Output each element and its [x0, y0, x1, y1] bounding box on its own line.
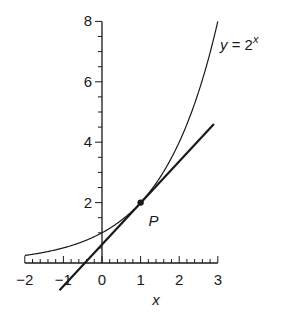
x-tick-label: 1 — [136, 271, 144, 288]
point-p-marker — [137, 199, 143, 205]
y-tick-label: 4 — [84, 133, 92, 150]
chart: −2−101232468xPy = 2x — [0, 0, 281, 317]
x-tick-label: 0 — [98, 271, 106, 288]
labels: −2−101232468xPy = 2x — [16, 12, 259, 308]
x-tick-label: −2 — [16, 271, 33, 288]
exponential-curve — [25, 21, 218, 255]
x-axis-label: x — [151, 291, 160, 308]
x-tick-label: 3 — [214, 271, 222, 288]
y-tick-label: 6 — [84, 73, 92, 90]
y-tick-label: 8 — [84, 12, 92, 29]
y-tick-label: 2 — [84, 194, 92, 211]
x-tick-label: 2 — [175, 271, 183, 288]
curves — [25, 21, 218, 290]
point-p-label: P — [149, 212, 159, 229]
x-tick-label: −1 — [55, 271, 72, 288]
curve-label: y = 2x — [219, 33, 259, 53]
axes — [25, 21, 218, 263]
